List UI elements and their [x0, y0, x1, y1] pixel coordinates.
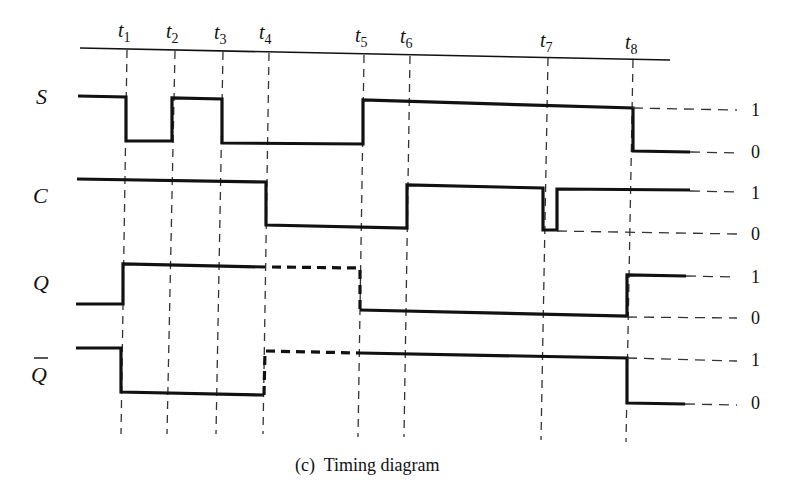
waveform-q-dashed [272, 267, 360, 310]
signal-label-s: S [36, 84, 47, 109]
waveform-q [76, 264, 265, 304]
level-qbar-1: 1 [751, 350, 760, 370]
signal-label-q-bar: Q [31, 358, 48, 387]
signal-label-c: C [33, 183, 48, 208]
time-label-t4: t4 [259, 21, 272, 47]
level-c-1: 1 [751, 183, 760, 203]
waveform-q-bar-dashed [264, 351, 360, 395]
level-s-0: 0 [751, 142, 760, 162]
time-label-t5: t5 [355, 24, 368, 50]
waveform-q-bar [76, 348, 264, 395]
signal-label-q: Q [33, 270, 49, 295]
ref-line-q-bar-high [627, 358, 737, 361]
time-axis [80, 48, 670, 60]
time-label-t7: t7 [540, 29, 553, 55]
level-q-1: 1 [751, 267, 760, 287]
ref-line-s-low [690, 152, 737, 153]
time-label-t8: t8 [625, 31, 638, 57]
figure-caption: (c) Timing diagram [295, 455, 440, 476]
time-label-t6: t6 [400, 25, 413, 51]
waveform-q-2 [360, 275, 686, 316]
svg-text:Q: Q [31, 362, 47, 387]
level-labels: 1 0 1 0 1 0 1 0 [751, 100, 760, 413]
ref-line-s-high [633, 108, 737, 110]
timing-diagram: t1 t2 t3 t4 t5 t6 t7 t8 S C Q Q [0, 0, 793, 504]
waveform-s [78, 96, 690, 152]
ref-line-c-low [557, 231, 737, 234]
waveform-q-bar-2 [360, 353, 685, 404]
ref-line-q-bar-low [685, 404, 737, 405]
time-label-t1: t1 [118, 19, 131, 45]
level-s-1: 1 [751, 100, 760, 120]
time-label-t2: t2 [166, 20, 179, 46]
ref-line-c-high [690, 191, 737, 192]
time-label-t3: t3 [214, 21, 227, 47]
level-q-0: 0 [751, 308, 760, 328]
level-qbar-0: 0 [751, 393, 760, 413]
level-c-0: 0 [751, 224, 760, 244]
ref-line-q-low [627, 317, 737, 318]
time-labels: t1 t2 t3 t4 t5 t6 t7 t8 [118, 19, 638, 57]
ref-line-q-high [686, 276, 737, 277]
time-gridlines [121, 50, 633, 442]
waveform-c [77, 179, 690, 230]
